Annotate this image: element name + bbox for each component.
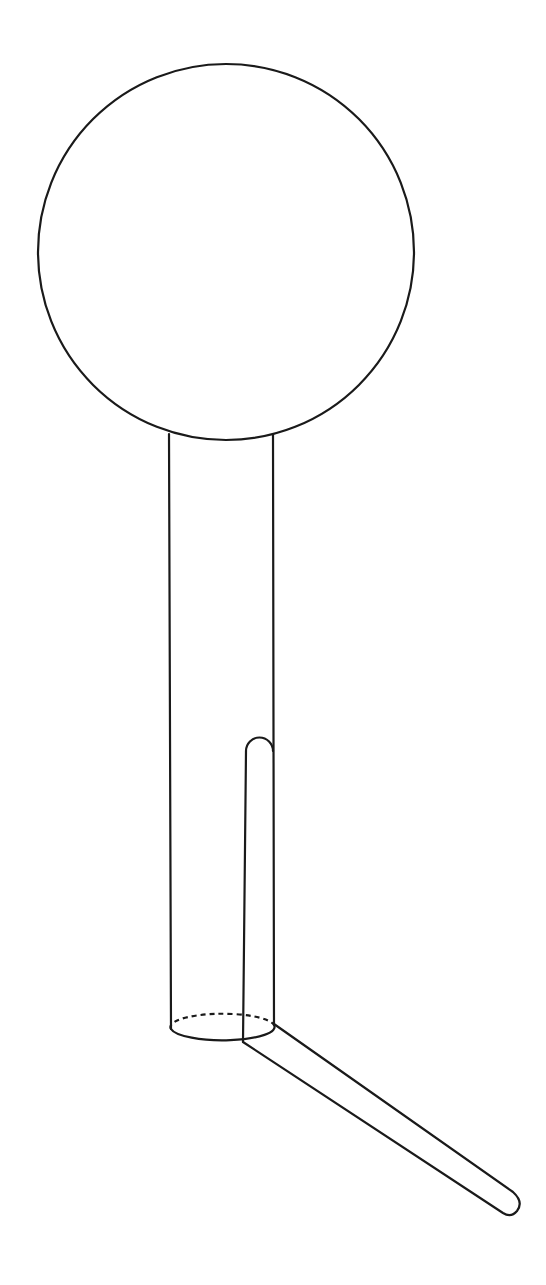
sphere — [38, 64, 414, 440]
cylinder-base-back-arc — [170, 1014, 274, 1029]
sphere-on-cylinder-diagram — [0, 0, 546, 1285]
cylinder-base-front-arc — [171, 1025, 275, 1040]
cylinder-left-edge — [169, 434, 171, 1029]
inner-tube — [243, 738, 273, 1043]
cylinder-right-edge — [273, 434, 274, 1025]
outlet-tube — [243, 1024, 520, 1215]
